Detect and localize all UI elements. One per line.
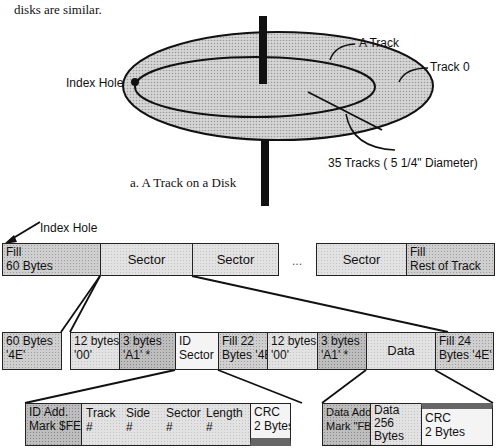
- line1: 12 bytes: [271, 334, 317, 348]
- track-index-hole-label: Index Hole: [40, 221, 97, 235]
- tracks-count-label: 35 Tracks ( 5 1/4" Diameter): [328, 156, 478, 170]
- figure-caption: a. A Track on a Disk: [130, 175, 236, 191]
- line2: Mark $FE: [29, 419, 81, 433]
- ellipsis: ...: [292, 254, 302, 268]
- line2: 'A1' *: [123, 348, 175, 362]
- track-sector-n: Sector: [316, 243, 407, 276]
- line1: Fill 24: [439, 334, 493, 348]
- sector-data: Data: [366, 332, 436, 370]
- data-address-mark: Data Address Mark "FB": [322, 403, 371, 446]
- spindle-bottom: [261, 138, 269, 206]
- track-0-label: Track 0: [430, 60, 470, 74]
- line1: CRC: [254, 405, 290, 419]
- line1: Fill: [6, 245, 100, 259]
- spindle-top: [259, 16, 267, 84]
- line1: 3 bytes: [123, 334, 175, 348]
- track-sector-2: Sector: [192, 243, 279, 276]
- id-field-sector: Sector #: [166, 406, 201, 434]
- field-value: #: [126, 420, 150, 434]
- data-256-bytes: Data 256 Bytes: [370, 403, 422, 446]
- a-track-label: A Track: [359, 36, 399, 50]
- line3: Bytes: [374, 430, 421, 443]
- line2: '00': [271, 348, 317, 362]
- line1: CRC: [425, 411, 492, 425]
- line2: Bytes '4E': [222, 348, 267, 362]
- line1: 60 Bytes: [6, 334, 61, 348]
- sector-id: ID Sector: [175, 332, 219, 370]
- sector-a1-a: 3 bytes 'A1' *: [119, 332, 176, 370]
- sector-fill-24: Fill 24 Bytes '4E': [435, 332, 494, 370]
- line2: Mark "FB": [326, 419, 370, 433]
- line2: '00': [74, 348, 119, 362]
- line1: ID Add.: [29, 405, 81, 419]
- line2: Sector: [179, 348, 218, 362]
- index-hole-label: Index Hole: [66, 76, 123, 90]
- sector-a1-b: 3 bytes 'A1' *: [317, 332, 367, 370]
- field-value: #: [206, 420, 243, 434]
- line1: Data Address: [326, 405, 370, 419]
- id-crc: CRC 2 Bytes: [250, 403, 291, 446]
- line2: 60 Bytes: [6, 259, 100, 273]
- sector-sync-12-b: 12 bytes '00': [267, 332, 318, 370]
- line2: Rest of Track: [410, 259, 494, 273]
- line1: 3 bytes: [321, 334, 366, 348]
- track-fill-60: Fill 60 Bytes: [2, 243, 101, 276]
- line1: ID: [179, 334, 218, 348]
- field-name: Length: [206, 406, 243, 420]
- field-name: Track: [86, 406, 116, 420]
- id-field-track: Track #: [86, 406, 116, 434]
- data-crc: CRC 2 Bytes: [421, 403, 493, 446]
- line2: '4E': [6, 348, 61, 362]
- line1: Fill 22: [222, 334, 267, 348]
- id-field-side: Side #: [126, 406, 150, 434]
- field-name: Side: [126, 406, 150, 420]
- id-address-mark: ID Add. Mark $FE: [25, 403, 82, 446]
- line2: 'A1' *: [321, 348, 366, 362]
- id-fields: Track # Side # Sector # Length #: [81, 403, 251, 446]
- field-value: #: [86, 420, 116, 434]
- track-fill-rest: Fill Rest of Track: [406, 243, 495, 276]
- field-value: #: [166, 420, 201, 434]
- line1: 12 bytes: [74, 334, 119, 348]
- sector-sync-12-a: 12 bytes '00': [70, 332, 120, 370]
- track-sector-1: Sector: [100, 243, 193, 276]
- sector-fill-22: Fill 22 Bytes '4E': [218, 332, 268, 370]
- line2: 2 Bytes: [425, 425, 492, 439]
- line2: 2 Bytes: [254, 419, 290, 433]
- id-field-length: Length #: [206, 406, 243, 434]
- sector-fill-60: 60 Bytes '4E': [2, 332, 62, 370]
- index-hole-dot: [131, 78, 139, 86]
- line1: Fill: [410, 245, 494, 259]
- field-name: Sector: [166, 406, 201, 420]
- line2: Bytes '4E': [439, 348, 493, 362]
